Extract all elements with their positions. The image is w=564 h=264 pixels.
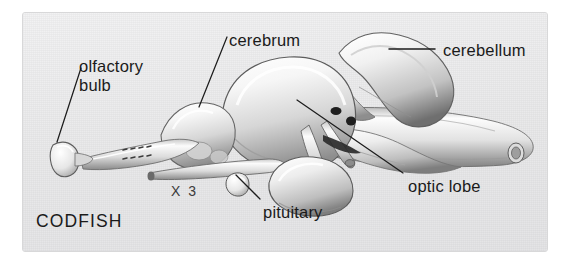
- label-olfactory-bulb-line2: bulb: [79, 76, 143, 95]
- scale-note: X 3: [171, 184, 198, 199]
- cerebrum-shape: [222, 57, 356, 173]
- olfactory-bulb-shape: [50, 142, 93, 177]
- figure-frame: olfactory bulb cerebrum cerebellum optic…: [22, 12, 548, 252]
- olfactory-bulb-leader: [57, 68, 81, 142]
- label-cerebellum: cerebellum: [443, 42, 526, 60]
- label-optic-lobe: optic lobe: [408, 178, 481, 196]
- subject-caption: CODFISH: [36, 212, 122, 231]
- codfish-brain-figure: olfactory bulb cerebrum cerebellum optic…: [0, 0, 564, 264]
- label-pituitary: pituitary: [263, 204, 323, 222]
- forebrain-lobe: [161, 103, 235, 169]
- label-olfactory-bulb-line1: olfactory: [79, 57, 143, 76]
- label-cerebrum: cerebrum: [229, 32, 300, 50]
- cerebrum-leader: [199, 37, 227, 107]
- label-olfactory-bulb: olfactory bulb: [79, 57, 143, 95]
